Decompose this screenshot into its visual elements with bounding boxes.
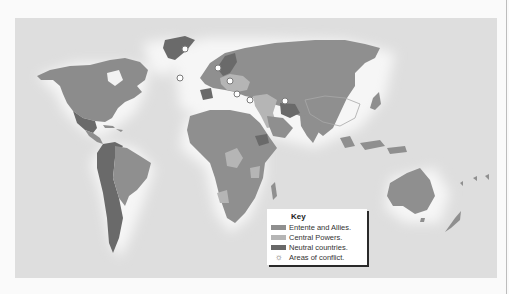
key-label: Neutral countries. xyxy=(289,243,348,252)
conflict-icon xyxy=(282,98,288,104)
conflict-icon xyxy=(234,91,240,97)
key-item-central: Central Powers. xyxy=(271,232,342,242)
conflict-icon xyxy=(215,65,221,71)
map-svg xyxy=(15,18,497,278)
conflict-icon xyxy=(177,75,183,81)
world-map xyxy=(15,18,497,278)
key-title: Key xyxy=(291,212,306,221)
page-edge-line xyxy=(506,0,507,294)
map-key: Key Entente and Allies. Central Powers. … xyxy=(267,209,367,265)
key-label: Central Powers. xyxy=(289,233,342,242)
key-label: Areas of conflict. xyxy=(289,253,344,262)
conflict-icon xyxy=(247,97,253,103)
entente-swatch xyxy=(271,225,286,230)
key-item-neutral: Neutral countries. xyxy=(271,242,348,252)
key-label: Entente and Allies. xyxy=(289,223,351,232)
key-item-conflict: ☼ Areas of conflict. xyxy=(271,252,344,262)
key-item-entente: Entente and Allies. xyxy=(271,222,351,232)
central-swatch xyxy=(271,235,286,240)
conflict-sun-icon: ☼ xyxy=(271,252,286,262)
conflict-icon xyxy=(227,78,233,84)
neutral-swatch xyxy=(271,245,286,250)
conflict-icon xyxy=(182,46,188,52)
